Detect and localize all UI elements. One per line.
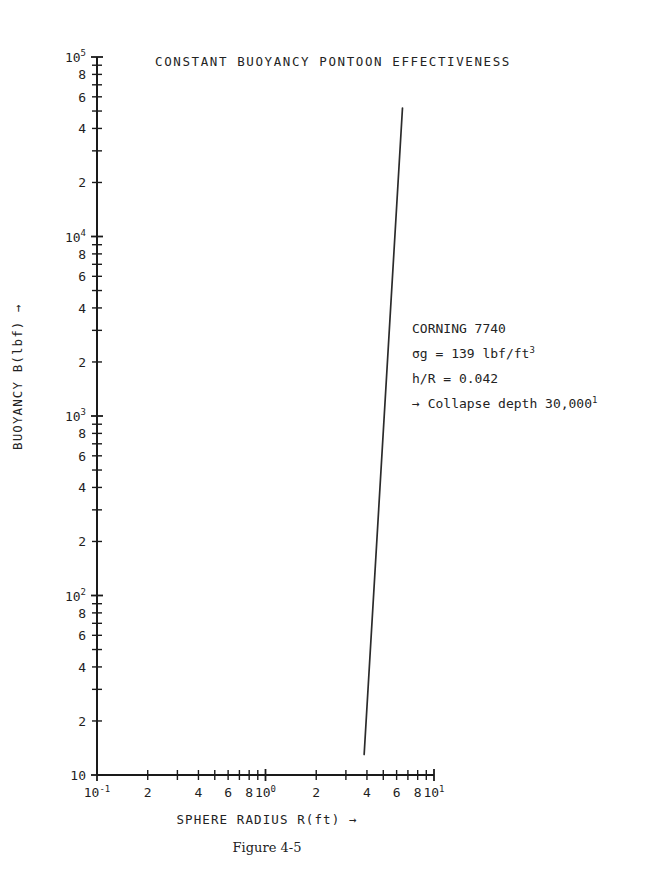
y-tick-label: 102 <box>65 588 86 603</box>
x-axis-ticks <box>97 769 434 781</box>
x-tick-label: 10-1 <box>84 785 111 800</box>
y-tick-label: 8 <box>78 67 86 82</box>
x-tick-label: 101 <box>423 785 444 800</box>
y-tick-label: 8 <box>78 246 86 261</box>
y-tick-label: 2 <box>78 354 86 369</box>
annotation-line: h/R = 0.042 <box>412 366 597 391</box>
y-tick-label: 105 <box>65 50 86 65</box>
y-tick-label: 103 <box>65 409 86 424</box>
annotation-line: → Collapse depth 30,0001 <box>412 391 597 416</box>
y-tick-label: 6 <box>78 89 86 104</box>
y-axis-title: BUOYANCY B(lbf) → <box>10 303 25 450</box>
x-tick-label: 8 <box>245 785 253 800</box>
x-tick-label: 2 <box>312 785 320 800</box>
y-tick-label: 6 <box>78 448 86 463</box>
annotation-line: σg = 139 lbf/ft3 <box>412 341 597 366</box>
y-tick-label: 10 <box>70 768 86 783</box>
x-axis-title: SPHERE RADIUS R(ft) → <box>97 812 437 827</box>
y-tick-label: 6 <box>78 269 86 284</box>
annotation-block: CORNING 7740σg = 139 lbf/ft3h/R = 0.042→… <box>412 316 597 416</box>
x-tick-label: 2 <box>144 785 152 800</box>
plot-canvas <box>0 0 666 880</box>
x-tick-label: 6 <box>393 785 401 800</box>
y-tick-label: 2 <box>78 534 86 549</box>
y-tick-label: 2 <box>78 713 86 728</box>
figure-root: CONSTANT BUOYANCY PONTOON EFFECTIVENESS … <box>0 0 666 880</box>
annotation-line: CORNING 7740 <box>412 316 597 341</box>
y-tick-label: 2 <box>78 175 86 190</box>
x-tick-label: 8 <box>414 785 422 800</box>
x-tick-label: 100 <box>255 785 276 800</box>
y-tick-label: 4 <box>78 300 86 315</box>
y-tick-label: 4 <box>78 121 86 136</box>
y-tick-label: 104 <box>65 229 86 244</box>
y-tick-label: 4 <box>78 659 86 674</box>
data-series-group <box>364 108 402 755</box>
y-tick-label: 8 <box>78 605 86 620</box>
x-tick-label: 6 <box>224 785 232 800</box>
y-tick-label: 6 <box>78 628 86 643</box>
y-tick-label: 4 <box>78 480 86 495</box>
figure-caption: Figure 4-5 <box>97 840 437 855</box>
x-tick-label: 4 <box>195 785 203 800</box>
y-tick-label: 8 <box>78 426 86 441</box>
x-tick-label: 4 <box>363 785 371 800</box>
series-line <box>364 108 402 755</box>
